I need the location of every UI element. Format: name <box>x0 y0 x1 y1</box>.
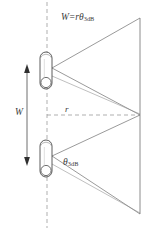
width-arrow-head-down <box>24 157 30 166</box>
range-label: r <box>65 105 69 114</box>
beam-cone-top <box>52 18 140 115</box>
antenna-beamwidth-diagram: W=rθ3dB θ3dB r W <box>0 0 155 230</box>
beam-width-equation-label: W=rθ3dB <box>61 13 94 23</box>
cross-range-width-label: W <box>15 108 23 118</box>
antenna-bottom-aperture <box>41 165 51 175</box>
range-symbol-r: r <box>65 104 69 114</box>
diagram-canvas <box>0 0 155 230</box>
antenna-element-bottom <box>40 140 52 177</box>
beam-line-bottom-upper <box>52 115 140 156</box>
antenna-top-aperture <box>41 77 51 87</box>
beam-line-top-upper <box>52 18 140 68</box>
equation-symbol-w: W <box>61 12 69 22</box>
width-double-arrow <box>24 64 30 166</box>
angle-subscript-3db: 3dB <box>68 160 79 167</box>
antenna-element-top <box>40 52 52 89</box>
beam-line-bottom-secondary <box>52 164 140 213</box>
width-symbol-w: W <box>15 107 23 117</box>
equation-subscript-3db: 3dB <box>84 15 95 22</box>
beamwidth-angle-label: θ3dB <box>63 158 78 168</box>
width-arrow-head-up <box>24 64 30 73</box>
